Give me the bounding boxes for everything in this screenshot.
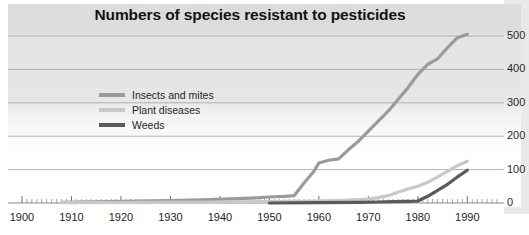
x-tick-label: 1920 — [101, 211, 141, 223]
y-tick-label: 100 — [507, 163, 525, 175]
legend-item: Insects and mites — [99, 85, 214, 99]
y-tick-label: 0 — [507, 196, 513, 208]
legend-item: Weeds — [99, 115, 165, 129]
y-tick-label: 200 — [507, 129, 525, 141]
legend-swatch-icon — [99, 108, 125, 112]
legend-item: Plant diseases — [99, 100, 200, 114]
x-tick-label: 1990 — [447, 211, 487, 223]
x-tick-label: 1900 — [2, 211, 42, 223]
x-tick-label: 1980 — [398, 211, 438, 223]
legend-label: Weeds — [132, 119, 165, 131]
legend-label: Insects and mites — [132, 89, 214, 101]
legend-label: Plant diseases — [132, 104, 200, 116]
x-tick-label: 1910 — [51, 211, 91, 223]
y-tick-label: 400 — [507, 62, 525, 74]
x-tick-label: 1950 — [249, 211, 289, 223]
x-tick-label: 1930 — [150, 211, 190, 223]
gridlines-group — [8, 36, 504, 203]
y-tick-label: 300 — [507, 96, 525, 108]
x-tick-label: 1970 — [348, 211, 388, 223]
chart-svg — [0, 0, 529, 235]
legend-swatch-icon — [99, 93, 125, 97]
legend-swatch-icon — [99, 123, 125, 127]
chart-figure: Numbers of species resistant to pesticid… — [0, 0, 529, 235]
x-tick-label: 1960 — [299, 211, 339, 223]
y-tick-label: 500 — [507, 29, 525, 41]
x-tick-label: 1940 — [200, 211, 240, 223]
